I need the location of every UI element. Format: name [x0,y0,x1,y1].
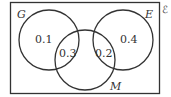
universal-set-symbol: ℰ [162,4,168,15]
universal-set-rectangle [11,3,160,94]
region-g-only: 0.1 [35,33,53,46]
set-label-g: G [17,8,26,21]
set-label-m: M [109,80,122,93]
circle-m [55,30,115,90]
region-g-and-m: 0.3 [59,47,77,60]
venn-diagram: ℰ G E M 0.1 0.3 0.2 0.4 [0,0,171,97]
region-e-and-m: 0.2 [95,47,113,60]
region-e-only: 0.4 [120,33,138,46]
set-label-e: E [144,8,153,21]
